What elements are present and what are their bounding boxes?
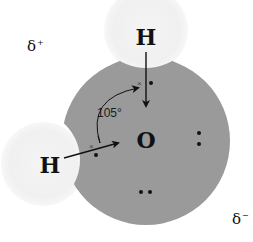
svg-text:δ: δ — [27, 37, 36, 55]
partial-positive-charge: δ + — [27, 37, 44, 55]
svg-text:+: + — [37, 38, 44, 47]
lone-pair-bottom-electron-2 — [148, 190, 152, 194]
hydrogen-electron-left: × — [89, 142, 94, 151]
svg-text:−: − — [242, 211, 249, 220]
bond-angle-label: 105° — [97, 106, 122, 120]
water-molecule-diagram: 105° × × O H H δ + δ − — [0, 0, 253, 242]
oxygen-bonding-electron-left — [94, 153, 98, 157]
oxygen-bonding-electron-top — [149, 81, 153, 85]
lone-pair-bottom-electron-1 — [139, 190, 143, 194]
hydrogen-electron-top: × — [137, 79, 142, 88]
svg-text:δ: δ — [232, 210, 241, 228]
partial-negative-charge: δ − — [232, 210, 249, 228]
oxygen-symbol: O — [136, 127, 155, 153]
hydrogen-left-symbol: H — [40, 152, 61, 178]
lone-pair-right-electron-1 — [197, 131, 201, 135]
hydrogen-top-symbol: H — [136, 24, 157, 50]
lone-pair-right-electron-2 — [197, 142, 201, 146]
